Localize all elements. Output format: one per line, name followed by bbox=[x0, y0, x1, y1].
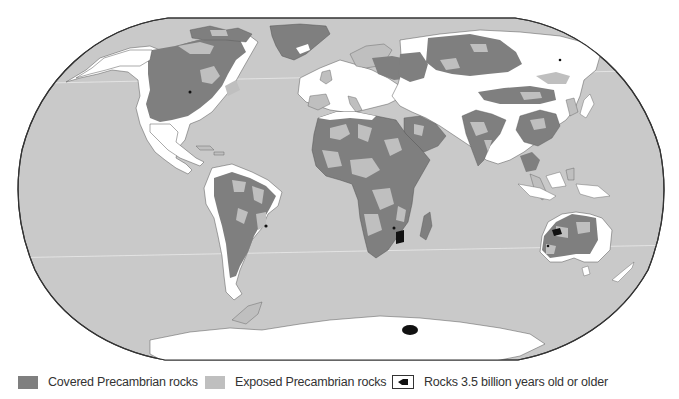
legend-item-covered: Covered Precambrian rocks bbox=[18, 374, 198, 390]
oldest-rocks-africa bbox=[396, 230, 404, 244]
legend-label: Rocks 3.5 billion years old or older bbox=[424, 375, 608, 389]
exposed-precambrian-swatch bbox=[205, 376, 225, 389]
covered-precambrian-swatch bbox=[18, 376, 38, 389]
legend-item-old-rocks: Rocks 3.5 billion years old or older bbox=[392, 374, 608, 390]
oldest-rocks-antarctica bbox=[402, 325, 418, 335]
legend-label: Covered Precambrian rocks bbox=[48, 375, 198, 389]
legend: Covered Precambrian rocks Exposed Precam… bbox=[0, 368, 679, 399]
world-map bbox=[0, 0, 679, 368]
old-rocks-swatch bbox=[392, 375, 414, 389]
legend-label: Exposed Precambrian rocks bbox=[235, 375, 386, 389]
legend-item-exposed: Exposed Precambrian rocks bbox=[205, 374, 386, 390]
old-rocks-icon bbox=[397, 378, 409, 386]
